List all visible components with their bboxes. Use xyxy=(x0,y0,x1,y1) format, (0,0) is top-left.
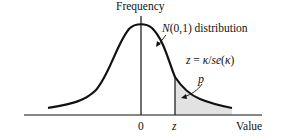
x-tick-z: z xyxy=(172,121,176,133)
x-tick-zero: 0 xyxy=(138,121,144,133)
curve-label: N(0,1) distribution xyxy=(162,23,248,35)
curve-label-n: N xyxy=(162,22,170,34)
x-axis-label: Value xyxy=(236,121,262,133)
formula-se: se xyxy=(211,54,221,66)
curve-label-rest: distribution xyxy=(192,22,248,34)
formula-equals: = xyxy=(190,54,202,66)
p-value-label: p xyxy=(198,73,204,85)
y-axis-label: Frequency xyxy=(116,1,165,13)
formula-close-paren: ) xyxy=(230,54,234,66)
curve-label-params: (0,1) xyxy=(170,22,192,34)
formula-label: z = κ/se(κ) xyxy=(186,55,234,67)
normal-distribution-plot xyxy=(0,0,281,137)
